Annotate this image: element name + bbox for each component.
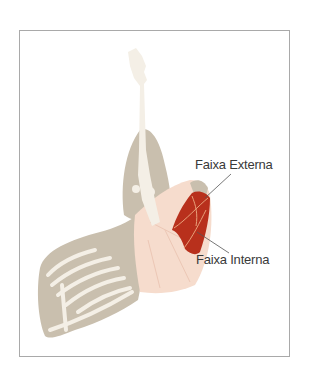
label-faixa-interna: Faixa Interna xyxy=(196,252,269,267)
anatomy-illustration xyxy=(0,0,317,384)
leader-line-external xyxy=(205,174,231,198)
label-faixa-externa: Faixa Externa xyxy=(195,157,273,172)
